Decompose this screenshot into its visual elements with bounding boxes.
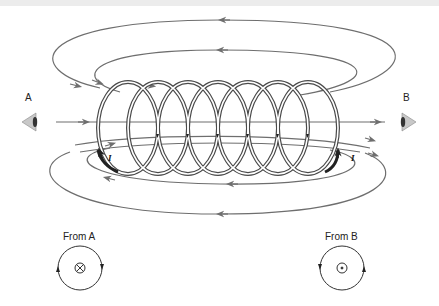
eye-icon-a [22,113,37,131]
solenoid-diagram [0,0,439,306]
view-from-a-label: From A [63,231,95,242]
field-line-inner-top [95,50,357,95]
view-from-b [318,246,366,290]
observer-a-label: A [25,92,32,103]
view-from-b-label: From B [325,231,358,242]
current-label-right: I [351,153,355,163]
current-label-left: I [108,153,112,163]
view-from-a [56,246,104,290]
field-lines [50,20,396,214]
solenoid-coil [98,82,338,174]
eye-icon-b [401,113,416,131]
observer-b-label: B [403,92,410,103]
